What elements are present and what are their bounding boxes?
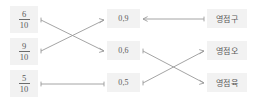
fraction-5-10: 5 10 [19,74,30,94]
fraction-cell-1[interactable]: 9 10 [10,38,38,65]
fraction-denominator: 10 [19,53,30,62]
fraction-6-10: 6 10 [19,10,30,30]
fraction-denominator: 10 [19,85,30,94]
connector-fraction0-decimal1[interactable] [41,18,104,53]
fraction-numerator: 5 [21,74,27,83]
fraction-column: 6 10 9 10 5 10 [10,0,38,102]
connector-fraction2-decimal2[interactable] [41,82,104,87]
word-cell-1[interactable]: 영점오 [207,41,247,60]
fraction-denominator: 10 [19,21,30,30]
fraction-cell-2[interactable]: 5 10 [10,70,38,97]
decimal-column: 0,9 0,6 0,5 [107,0,140,102]
connector-fraction1-decimal0[interactable] [41,19,104,54]
connector-decimal0-word0[interactable] [143,17,204,22]
decimal-cell-2[interactable]: 0,5 [107,73,140,92]
matching-exercise-canvas: 6 10 9 10 5 10 0,9 0,6 0,5 영점구 [0,0,253,102]
decimal-cell-1[interactable]: 0,6 [107,41,140,60]
word-cell-2[interactable]: 영점육 [207,73,247,92]
fraction-numerator: 9 [21,42,27,51]
fraction-9-10: 9 10 [19,42,30,62]
word-cell-0[interactable]: 영점구 [207,9,247,28]
word-column: 영점구 영점오 영점육 [207,0,247,102]
fraction-numerator: 6 [21,10,27,19]
fraction-cell-0[interactable]: 6 10 [10,6,38,33]
connector-decimal1-word2[interactable] [143,49,204,85]
decimal-cell-0[interactable]: 0,9 [107,9,140,28]
connector-decimal2-word1[interactable] [143,50,204,86]
